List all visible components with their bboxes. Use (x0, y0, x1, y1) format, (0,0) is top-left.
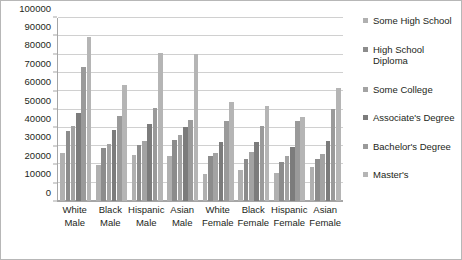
legend-item-label: High School Diploma (373, 44, 459, 67)
bar[interactable] (279, 162, 284, 201)
y-tick-label: 60000 (25, 77, 57, 87)
y-tick-label: 40000 (25, 114, 57, 124)
bar[interactable] (320, 154, 325, 201)
bar[interactable] (219, 142, 224, 201)
bar[interactable] (107, 144, 112, 201)
bar[interactable] (132, 155, 137, 201)
y-tick-label: 50000 (25, 96, 57, 106)
x-axis-label: Asian Female (307, 204, 343, 229)
y-tick-mark (53, 164, 57, 165)
bar[interactable] (76, 113, 81, 201)
y-tick-mark (53, 127, 57, 128)
y-tick-mark (53, 53, 57, 54)
y-tick-label: 30000 (25, 133, 57, 143)
bar[interactable] (101, 148, 106, 201)
y-tick-mark (53, 17, 57, 18)
legend-item[interactable]: High School Diploma (363, 44, 459, 67)
x-axis-label: White Female (200, 204, 236, 229)
bar[interactable] (260, 126, 265, 201)
bar[interactable] (295, 121, 300, 201)
bar-group (201, 18, 237, 201)
bar[interactable] (183, 127, 188, 201)
bar[interactable] (147, 124, 152, 201)
x-axis-label: Black Male (93, 204, 129, 229)
x-axis-label: White Male (57, 204, 93, 229)
bar[interactable] (66, 131, 71, 201)
bar[interactable] (203, 174, 208, 201)
legend-item-label: Master's (373, 169, 409, 181)
bar-group (94, 18, 130, 201)
legend-swatch-icon (363, 87, 368, 92)
y-tick-mark (53, 90, 57, 91)
legend-item-label: Some High School (373, 15, 452, 27)
bar[interactable] (238, 170, 243, 201)
y-tick-label: 100000 (19, 4, 57, 14)
bar[interactable] (153, 108, 158, 201)
bar[interactable] (81, 67, 86, 201)
y-tick-mark (53, 201, 57, 202)
bar[interactable] (96, 165, 101, 201)
bar[interactable] (117, 116, 122, 201)
y-tick-mark (53, 72, 57, 73)
bar[interactable] (254, 142, 259, 201)
x-axis-label: Black Female (236, 204, 272, 229)
bar[interactable] (167, 156, 172, 201)
bar[interactable] (122, 85, 127, 201)
bar-group (307, 18, 343, 201)
legend-item[interactable]: Some College (363, 84, 459, 96)
x-axis-label: Asian Male (164, 204, 200, 229)
bar[interactable] (112, 130, 117, 201)
y-tick-mark (53, 182, 57, 183)
x-axis-labels: White MaleBlack MaleHispanic MaleAsian M… (57, 204, 343, 229)
bar[interactable] (188, 120, 193, 201)
bar[interactable] (336, 88, 341, 201)
legend-item-label: Some College (373, 84, 433, 96)
bar[interactable] (224, 121, 229, 201)
legend-item[interactable]: Associate's Degree (363, 112, 459, 124)
bar[interactable] (285, 156, 290, 201)
bar[interactable] (290, 147, 295, 201)
bar[interactable] (249, 152, 254, 201)
plot-area (57, 18, 343, 202)
bar[interactable] (274, 173, 279, 201)
y-tick-mark (53, 35, 57, 36)
bar-group (129, 18, 165, 201)
bar[interactable] (87, 37, 92, 201)
legend-item-label: Bachelor's Degree (373, 141, 451, 153)
bar[interactable] (71, 126, 76, 201)
y-tick-mark (53, 145, 57, 146)
bar[interactable] (142, 141, 147, 201)
x-axis-label: Hispanic Male (128, 204, 164, 229)
y-tick-label: 80000 (25, 41, 57, 51)
bar[interactable] (194, 54, 199, 201)
legend-swatch-icon (363, 144, 368, 149)
legend-item[interactable]: Master's (363, 169, 459, 181)
legend-item-label: Associate's Degree (373, 112, 455, 124)
legend-item[interactable]: Some High School (363, 15, 459, 27)
legend-item[interactable]: Bachelor's Degree (363, 141, 459, 153)
bar[interactable] (310, 167, 315, 201)
bar[interactable] (178, 135, 183, 201)
bar[interactable] (315, 159, 320, 201)
bar[interactable] (208, 156, 213, 201)
legend-swatch-icon (363, 47, 368, 52)
bar[interactable] (137, 145, 142, 201)
legend-swatch-icon (363, 18, 368, 23)
bar[interactable] (265, 106, 270, 201)
bar-group (58, 18, 94, 201)
bar[interactable] (331, 109, 336, 201)
y-tick-label: 90000 (25, 22, 57, 32)
bar[interactable] (172, 140, 177, 201)
y-tick-label: 10000 (25, 169, 57, 179)
bar-group (272, 18, 308, 201)
bar[interactable] (213, 153, 218, 201)
chart-legend: Some High SchoolHigh School DiplomaSome … (363, 15, 459, 198)
bar[interactable] (244, 159, 249, 201)
bar-group (165, 18, 201, 201)
bar[interactable] (300, 117, 305, 201)
bar[interactable] (158, 53, 163, 201)
y-tick-label: 20000 (25, 151, 57, 161)
bar[interactable] (326, 141, 331, 201)
bar[interactable] (60, 153, 65, 201)
bar[interactable] (229, 102, 234, 201)
